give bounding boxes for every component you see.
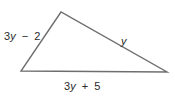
bottom-side-variable: y [69, 80, 77, 92]
bottom-side-constant: 5 [94, 80, 100, 92]
left-side-constant: 2 [34, 30, 40, 42]
bottom-side-label: 3y + 5 [64, 80, 100, 92]
bottom-side-operator: + [82, 80, 88, 92]
left-side-operator: − [22, 30, 28, 42]
triangle-diagram: 3y − 2 y 3y + 5 [0, 0, 175, 97]
left-side-label: 3y − 2 [4, 30, 40, 42]
triangle-shape [21, 12, 167, 72]
left-side-variable: y [9, 30, 17, 42]
right-side-label: y [120, 35, 128, 47]
